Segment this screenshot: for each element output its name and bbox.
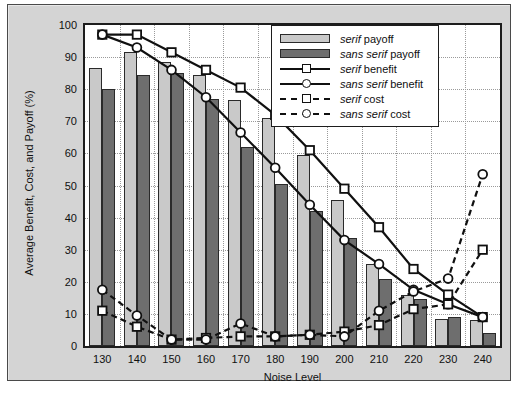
marker-serif-benefit-210 xyxy=(375,223,383,231)
line-sans-serif-cost xyxy=(102,174,482,339)
y-axis-title: Average Benefit, Cost, and Payoff (%) xyxy=(23,23,35,343)
marker-sans-serif-cost-240 xyxy=(478,170,487,179)
x-axis-tick-labels: 130140150160170180190200210220230240 xyxy=(83,353,502,369)
y-tick-10: 10 xyxy=(43,308,77,320)
legend-item-sans-serif-benefit[interactable]: sans serif benefit xyxy=(278,76,432,91)
marker-sans-serif-cost-140 xyxy=(133,311,142,320)
marker-serif-benefit-160 xyxy=(202,66,210,74)
legend-key-icon xyxy=(278,32,334,45)
legend-label: sans serif cost xyxy=(340,108,410,120)
marker-serif-cost-230 xyxy=(444,300,452,308)
y-tick-70: 70 xyxy=(43,115,77,127)
x-tick-210: 210 xyxy=(370,353,388,365)
marker-serif-benefit-220 xyxy=(409,265,417,273)
legend-item-serif-payoff[interactable]: serif payoff xyxy=(278,31,432,46)
x-tick-200: 200 xyxy=(335,353,353,365)
marker-sans-serif-cost-180 xyxy=(271,332,280,341)
y-tick-60: 60 xyxy=(43,147,77,159)
marker-serif-benefit-150 xyxy=(167,48,175,56)
chart-panel: 0102030405060708090100 13014015016017018… xyxy=(7,4,511,381)
x-tick-230: 230 xyxy=(439,353,457,365)
y-tick-80: 80 xyxy=(43,83,77,95)
marker-sans-serif-cost-230 xyxy=(444,274,453,283)
chart-legend: serif payoffsans serif payoffserif benef… xyxy=(271,25,439,127)
legend-item-serif-cost[interactable]: serif cost xyxy=(278,91,432,106)
x-tick-160: 160 xyxy=(197,353,215,365)
marker-serif-cost-220 xyxy=(409,305,417,313)
legend-label: serif benefit xyxy=(340,63,397,75)
legend-label: serif cost xyxy=(340,93,384,105)
marker-sans-serif-cost-150 xyxy=(167,335,176,344)
y-tick-0: 0 xyxy=(43,340,77,352)
marker-sans-serif-benefit-140 xyxy=(133,43,142,52)
marker-serif-benefit-200 xyxy=(340,185,348,193)
marker-sans-serif-cost-160 xyxy=(202,335,211,344)
y-tick-100: 100 xyxy=(43,19,77,31)
marker-sans-serif-cost-190 xyxy=(305,330,314,339)
marker-serif-benefit-140 xyxy=(133,30,141,38)
y-tick-30: 30 xyxy=(43,244,77,256)
x-tick-140: 140 xyxy=(128,353,146,365)
x-tick-220: 220 xyxy=(404,353,422,365)
x-tick-170: 170 xyxy=(231,353,249,365)
marker-sans-serif-benefit-180 xyxy=(271,163,280,172)
marker-sans-serif-benefit-170 xyxy=(236,128,245,137)
marker-sans-serif-benefit-160 xyxy=(202,93,211,102)
marker-sans-serif-benefit-130 xyxy=(98,30,107,39)
legend-key-icon xyxy=(278,62,334,75)
marker-serif-cost-130 xyxy=(98,307,106,315)
marker-sans-serif-cost-210 xyxy=(375,306,384,315)
marker-sans-serif-cost-170 xyxy=(236,319,245,328)
y-tick-20: 20 xyxy=(43,276,77,288)
legend-item-serif-benefit[interactable]: serif benefit xyxy=(278,61,432,76)
marker-sans-serif-benefit-200 xyxy=(340,236,349,245)
marker-serif-benefit-190 xyxy=(306,146,314,154)
y-tick-40: 40 xyxy=(43,212,77,224)
marker-sans-serif-cost-130 xyxy=(98,285,107,294)
legend-label: sans serif payoff xyxy=(340,48,420,60)
legend-item-sans-serif-payoff[interactable]: sans serif payoff xyxy=(278,46,432,61)
x-axis-title: Noise Level xyxy=(83,371,502,383)
marker-sans-serif-benefit-150 xyxy=(167,66,176,75)
x-tick-190: 190 xyxy=(301,353,319,365)
legend-label: serif payoff xyxy=(340,33,394,45)
legend-key-icon xyxy=(278,77,334,90)
legend-key-icon xyxy=(278,92,334,105)
y-tick-50: 50 xyxy=(43,180,77,192)
marker-sans-serif-cost-200 xyxy=(340,332,349,341)
marker-sans-serif-benefit-240 xyxy=(478,313,487,322)
chart-figure: 0102030405060708090100 13014015016017018… xyxy=(0,0,519,394)
marker-serif-benefit-230 xyxy=(444,290,452,298)
x-tick-150: 150 xyxy=(162,353,180,365)
marker-serif-cost-140 xyxy=(133,323,141,331)
legend-label: sans serif benefit xyxy=(340,78,423,90)
marker-sans-serif-benefit-190 xyxy=(305,200,314,209)
marker-sans-serif-cost-220 xyxy=(409,287,418,296)
legend-key-icon xyxy=(278,107,334,120)
marker-serif-cost-240 xyxy=(479,246,487,254)
marker-serif-benefit-170 xyxy=(236,83,244,91)
marker-serif-cost-210 xyxy=(375,321,383,329)
legend-item-sans-serif-cost[interactable]: sans serif cost xyxy=(278,106,432,121)
y-axis-tick-labels: 0102030405060708090100 xyxy=(41,23,77,348)
marker-sans-serif-benefit-210 xyxy=(375,260,384,269)
marker-serif-cost-170 xyxy=(236,332,244,340)
x-tick-130: 130 xyxy=(93,353,111,365)
x-tick-240: 240 xyxy=(474,353,492,365)
legend-key-icon xyxy=(278,47,334,60)
y-tick-90: 90 xyxy=(43,51,77,63)
x-tick-180: 180 xyxy=(266,353,284,365)
